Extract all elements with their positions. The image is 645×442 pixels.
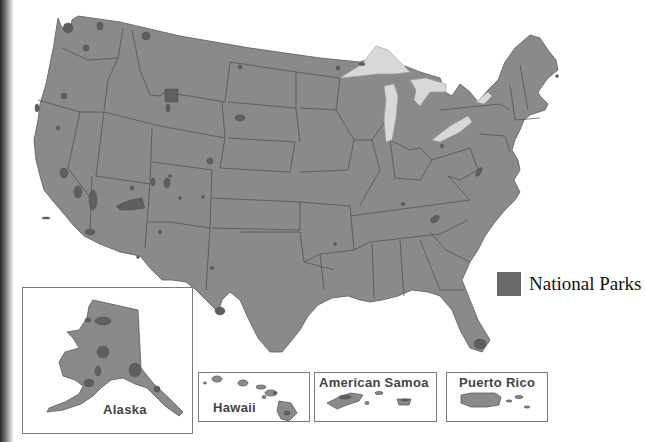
- park-swatch-icon: [497, 272, 521, 296]
- park-hot-springs: [334, 243, 337, 246]
- park-kobuk: [85, 318, 91, 322]
- park-lassen: [56, 126, 60, 130]
- park-olympic: [63, 23, 73, 33]
- park-hawaii-volcanoes: [284, 411, 290, 415]
- park-capitol-reef: [151, 178, 155, 186]
- park-grand-teton: [166, 104, 170, 112]
- park-carlsbad: [210, 267, 214, 270]
- puerto-rico-map: [447, 373, 547, 421]
- park-kings-canyon: [74, 186, 82, 198]
- puerto-rico-main: [461, 393, 501, 407]
- inset-alaska: Alaska: [22, 287, 193, 434]
- park-big-bend: [215, 307, 225, 315]
- park-american-samoa: [339, 395, 351, 399]
- park-canyonlands: [164, 178, 170, 188]
- park-denali: [97, 346, 109, 358]
- park-cuyahoga: [441, 144, 444, 148]
- park-great-sand-dunes: [202, 196, 205, 199]
- park-haleakala: [274, 392, 277, 395]
- american-samoa-map: [315, 373, 436, 421]
- inset-hawaii: Hawaii: [198, 372, 310, 422]
- legend-label-national-parks: National Parks: [529, 273, 641, 295]
- park-everglades: [474, 339, 486, 349]
- park-yellowstone: [165, 89, 178, 102]
- park-redwood: [35, 104, 39, 112]
- park-joshua-tree: [85, 229, 95, 235]
- alaska-shape: [47, 300, 183, 416]
- park-isle-royale: [359, 63, 365, 66]
- park-mammoth-cave: [401, 203, 405, 206]
- park-zion: [130, 186, 134, 190]
- park-north-cascades: [97, 22, 103, 30]
- park-yosemite: [60, 168, 68, 178]
- park-wind-cave: [235, 115, 245, 121]
- park-glacier: [142, 32, 150, 40]
- park-crater-lake: [61, 93, 67, 99]
- park-acadia: [556, 75, 559, 78]
- park-mesa-verde: [179, 197, 182, 200]
- park-katmai: [84, 379, 94, 387]
- park-rocky-mountain: [207, 158, 213, 164]
- park-death-valley: [89, 190, 97, 210]
- inset-american-samoa: American Samoa: [314, 372, 437, 422]
- park-gates-of-arctic: [95, 317, 111, 325]
- inset-label-alaska: Alaska: [103, 402, 147, 417]
- park-arches: [169, 175, 172, 178]
- park-wrangell: [129, 363, 141, 377]
- park-saguaro: [137, 256, 140, 259]
- inset-label-hawaii: Hawaii: [213, 400, 256, 415]
- park-petrified-forest: [159, 230, 162, 234]
- park-channel-islands: [42, 217, 50, 219]
- park-lake-clark: [95, 366, 101, 376]
- park-voyageurs: [336, 66, 340, 70]
- inset-puerto-rico: Puerto Rico: [446, 372, 548, 422]
- park-mount-rainier: [83, 45, 89, 51]
- park-glacier-bay: [154, 386, 160, 392]
- legend: National Parks: [497, 272, 641, 296]
- park-theodore-roosevelt: [238, 65, 242, 69]
